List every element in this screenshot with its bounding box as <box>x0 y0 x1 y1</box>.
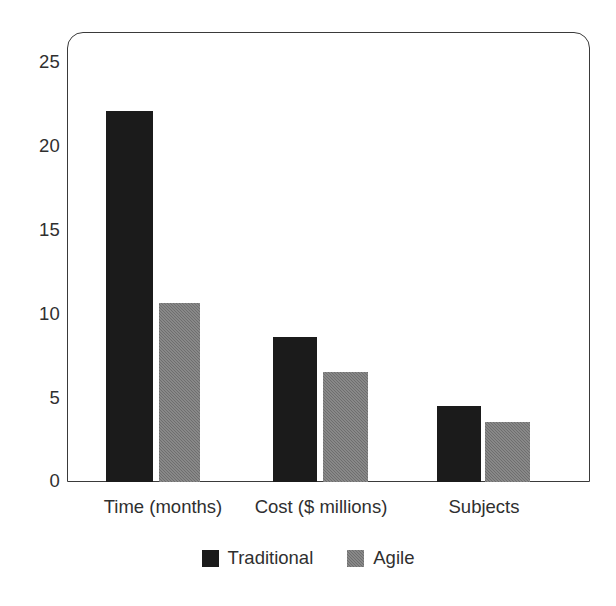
legend-item-traditional: Traditional <box>202 549 314 568</box>
plot-area-frame <box>67 32 590 482</box>
gray-square-swatch-icon <box>347 550 364 567</box>
chart-legend: Traditional Agile <box>0 549 616 568</box>
x-tick-label-cost: Cost ($ millions) <box>255 496 388 518</box>
y-tick-label-0: 0 <box>2 472 60 491</box>
bar-chart: 25 20 15 10 5 0 Time (months) Cost ($ mi… <box>0 0 616 606</box>
x-axis: Time (months) Cost ($ millions) Subjects <box>0 496 616 526</box>
y-tick-label-15: 15 <box>2 221 60 240</box>
legend-label-traditional: Traditional <box>228 549 314 568</box>
y-tick-label-25: 25 <box>2 53 60 72</box>
x-tick-label-time: Time (months) <box>104 496 223 518</box>
y-tick-label-10: 10 <box>2 305 60 324</box>
x-tick-label-subjects: Subjects <box>449 496 520 518</box>
legend-item-agile: Agile <box>347 549 414 568</box>
y-tick-label-20: 20 <box>2 137 60 156</box>
legend-label-agile: Agile <box>373 549 414 568</box>
y-tick-label-5: 5 <box>2 389 60 408</box>
dark-square-swatch-icon <box>202 550 219 567</box>
